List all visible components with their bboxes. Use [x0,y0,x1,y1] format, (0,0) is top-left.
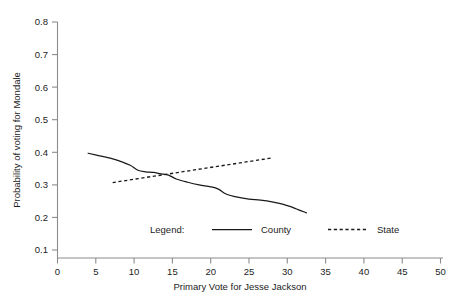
legend-title: Legend: [150,224,184,235]
x-tick-label: 40 [359,266,370,277]
legend-label-county: County [261,224,291,235]
y-tick-label: 0.2 [35,212,48,223]
x-tick-label: 25 [244,266,255,277]
x-tick-label: 20 [205,266,216,277]
y-axis-title: Probability of voting for Mondale [11,72,22,208]
y-tick-label: 0.3 [35,179,48,190]
x-tick-label: 15 [167,266,178,277]
y-tick-label: 0.7 [35,49,48,60]
y-axis: 0.8 0.7 0.6 0.5 0.4 0.3 0.2 0.1 Probabil… [11,16,58,258]
x-tick-label: 45 [397,266,408,277]
y-tick-label: 0.8 [35,16,48,27]
x-tick-label: 35 [320,266,331,277]
legend-label-state: State [377,224,399,235]
data-series-group [88,153,306,213]
x-axis-title: Primary Vote for Jesse Jackson [173,281,306,292]
legend: Legend: County State [150,224,399,235]
x-tick-label: 0 [55,266,60,277]
x-tick-label: 50 [435,266,446,277]
chart-figure: 0.8 0.7 0.6 0.5 0.4 0.3 0.2 0.1 Probabil… [0,0,456,298]
x-tick-label: 10 [129,266,140,277]
x-tick-label: 30 [282,266,293,277]
x-axis: 0 5 10 15 20 25 30 35 40 45 50 Primary V… [55,258,446,292]
line-chart-canvas: 0.8 0.7 0.6 0.5 0.4 0.3 0.2 0.1 Probabil… [0,0,456,298]
y-tick-label: 0.6 [35,82,48,93]
series-line-county [88,153,306,213]
y-tick-label: 0.5 [35,114,48,125]
y-tick-label: 0.4 [35,147,48,158]
y-tick-label: 0.1 [35,244,48,255]
x-tick-label: 5 [93,266,98,277]
